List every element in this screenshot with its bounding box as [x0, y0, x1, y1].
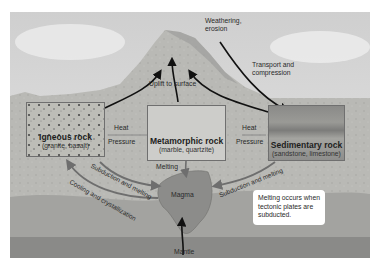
heat-right-label: Heat — [242, 124, 256, 132]
igneous-rock-examples: (granite, basalt) — [27, 142, 104, 149]
heat-left-label: Heat — [114, 124, 128, 132]
weathering-label: Weathering, — [205, 17, 242, 25]
note-line-3: subducted. — [258, 211, 320, 220]
sedimentary-rock-box: Sedimentary rock (sandstone, limestone) — [268, 105, 345, 161]
sedimentary-rock-title: Sedimentary rock — [269, 140, 344, 150]
metamorphic-rock-title: Metamorphic rock — [148, 136, 225, 146]
erosion-label: erosion — [205, 25, 227, 33]
sedimentary-rock-examples: (sandstone, limestone) — [269, 150, 344, 157]
rock-cycle-diagram: Igneous rock (granite, basalt) Metamorph… — [10, 12, 370, 258]
uplift-label: Uplift to surface — [149, 80, 196, 88]
igneous-rock-title: Igneous rock — [27, 132, 104, 142]
transport-label-1: Transport and — [252, 61, 294, 69]
igneous-rock-box: Igneous rock (granite, basalt) — [26, 102, 105, 157]
note-line-1: Melting occurs when — [258, 194, 320, 203]
subduction-note: Melting occurs when tectonic plates are … — [253, 190, 325, 225]
melting-label: Melting — [156, 163, 178, 171]
magma-label: Magma — [171, 191, 194, 199]
mantle-label: Mantle — [174, 248, 194, 256]
transport-label-2: compression — [252, 69, 291, 77]
note-line-2: tectonic plates are — [258, 203, 320, 212]
metamorphic-rock-box: Metamorphic rock (marble, quartzite) — [147, 105, 226, 161]
pressure-right-label: Pressure — [236, 138, 263, 146]
metamorphic-rock-examples: (marble, quartzite) — [148, 146, 225, 153]
pressure-left-label: Pressure — [108, 138, 135, 146]
